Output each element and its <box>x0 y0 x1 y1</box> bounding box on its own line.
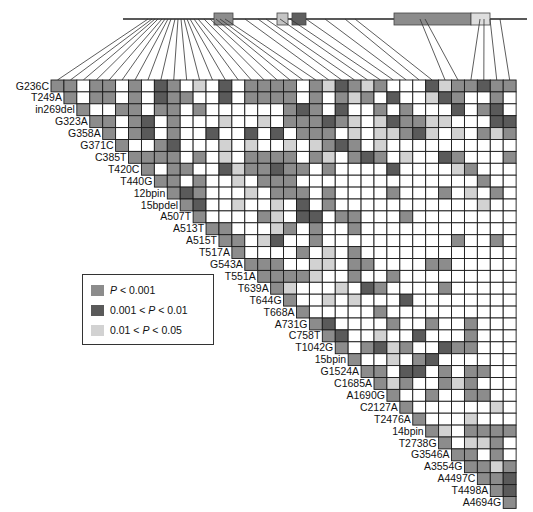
ld-cell <box>232 151 245 163</box>
ld-cell <box>309 163 322 175</box>
ld-cell <box>413 151 426 163</box>
ld-cell <box>219 92 232 104</box>
ld-cell <box>452 211 465 223</box>
ld-cell <box>245 116 258 128</box>
ld-cell <box>426 187 439 199</box>
ld-cell <box>439 163 452 175</box>
marker-label: G3546A <box>411 448 450 460</box>
ld-cell <box>426 199 439 211</box>
ld-cell <box>284 116 297 128</box>
ld-cell <box>335 330 348 342</box>
ld-cell <box>452 366 465 378</box>
marker-label: T668A <box>264 306 295 318</box>
ld-cell <box>387 175 400 187</box>
ld-cell <box>400 199 413 211</box>
ld-cell <box>400 401 413 413</box>
ld-cell <box>335 151 348 163</box>
ld-cell <box>77 80 90 92</box>
ld-cell <box>219 140 232 152</box>
ld-cell <box>348 354 361 366</box>
ld-cell <box>193 175 206 187</box>
ld-cell <box>374 270 387 282</box>
ld-cell <box>503 449 516 461</box>
ld-cell <box>361 330 374 342</box>
ld-cell <box>477 175 490 187</box>
ld-cell <box>309 175 322 187</box>
ld-cell <box>439 80 452 92</box>
ld-cell <box>206 223 219 235</box>
ld-cell <box>452 223 465 235</box>
ld-cell <box>154 151 167 163</box>
ld-cell <box>439 413 452 425</box>
ld-cell <box>348 282 361 294</box>
ld-cell <box>490 473 503 485</box>
ld-cell <box>452 80 465 92</box>
ld-cell <box>167 151 180 163</box>
ld-cell <box>271 151 284 163</box>
ld-cell <box>374 128 387 140</box>
ld-cell <box>154 175 167 187</box>
ld-cell <box>180 175 193 187</box>
ld-cell <box>503 282 516 294</box>
ld-cell <box>413 247 426 259</box>
ld-cell <box>387 354 400 366</box>
ld-cell <box>400 235 413 247</box>
ld-cell <box>464 449 477 461</box>
ld-cell <box>361 259 374 271</box>
ld-cell <box>335 342 348 354</box>
ld-cell <box>180 104 193 116</box>
ld-cell <box>322 318 335 330</box>
ld-cell <box>335 104 348 116</box>
ld-cell <box>271 270 284 282</box>
ld-cell <box>245 80 258 92</box>
ld-cell <box>490 211 503 223</box>
ld-cell <box>464 259 477 271</box>
ld-cell <box>322 306 335 318</box>
ld-cell <box>296 247 309 259</box>
marker-label: T420C <box>108 163 140 175</box>
ld-cell <box>490 413 503 425</box>
ld-cell <box>309 151 322 163</box>
ld-cell <box>103 80 116 92</box>
marker-label: 15bpin <box>315 353 347 365</box>
ld-cell <box>439 282 452 294</box>
ld-cell <box>322 104 335 116</box>
ld-cell <box>374 140 387 152</box>
ld-cell <box>167 92 180 104</box>
ld-cell <box>477 259 490 271</box>
ld-cell <box>503 211 516 223</box>
ld-cell <box>167 175 180 187</box>
ld-cell <box>400 140 413 152</box>
ld-cell <box>309 104 322 116</box>
ld-cell <box>503 80 516 92</box>
ld-cell <box>464 366 477 378</box>
ld-cell <box>309 80 322 92</box>
ld-cell <box>180 199 193 211</box>
ld-cell <box>193 163 206 175</box>
ld-cell <box>335 294 348 306</box>
ld-cell <box>490 80 503 92</box>
ld-cell <box>400 294 413 306</box>
ld-cell <box>206 128 219 140</box>
ld-cell <box>503 330 516 342</box>
ld-cell <box>219 211 232 223</box>
ld-cell <box>296 175 309 187</box>
ld-cell <box>477 104 490 116</box>
ld-cell <box>129 151 142 163</box>
ld-cell <box>413 282 426 294</box>
ld-cell <box>322 259 335 271</box>
ld-cell <box>452 389 465 401</box>
ld-cell <box>503 354 516 366</box>
ld-cell <box>309 211 322 223</box>
ld-cell <box>464 128 477 140</box>
marker-label: T551A <box>225 270 256 282</box>
ld-cell <box>219 116 232 128</box>
ld-cell <box>503 306 516 318</box>
ld-cell <box>322 92 335 104</box>
marker-label: C1685A <box>334 377 372 389</box>
ld-cell <box>167 116 180 128</box>
ld-cell <box>232 140 245 152</box>
ld-cell <box>452 104 465 116</box>
ld-cell <box>464 389 477 401</box>
ld-cell <box>413 366 426 378</box>
